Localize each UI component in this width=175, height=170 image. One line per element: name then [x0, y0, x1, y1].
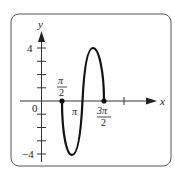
- x-axis: [20, 97, 157, 105]
- y-tick-label-neg4: −4: [22, 148, 34, 160]
- svg-text:3π: 3π: [96, 105, 108, 116]
- x-axis-arrow-icon: [146, 98, 157, 105]
- function-graph: x y 4 −4 0 π 2 π 3π: [0, 0, 175, 170]
- svg-text:π: π: [58, 75, 64, 86]
- svg-text:2: 2: [59, 87, 64, 98]
- x-label-pi-over-2: π 2: [57, 75, 67, 98]
- y-axis-arrow-icon: [38, 31, 45, 42]
- endpoint-dot-pi-over-2: [59, 98, 64, 103]
- endpoint-dot-3pi-over-2: [101, 98, 106, 103]
- y-tick-label-4: 4: [27, 42, 33, 54]
- y-axis: [37, 31, 46, 162]
- x-label-3pi-over-2: 3π 2: [96, 105, 111, 128]
- graph-frame: [11, 14, 171, 166]
- y-axis-label: y: [37, 18, 43, 30]
- x-axis-label: x: [159, 95, 165, 107]
- origin-label: 0: [32, 102, 38, 114]
- svg-text:2: 2: [101, 117, 106, 128]
- x-label-pi: π: [72, 106, 78, 117]
